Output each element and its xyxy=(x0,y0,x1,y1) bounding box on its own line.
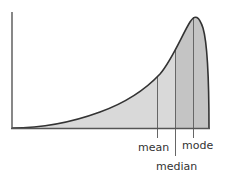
mean-label: mean xyxy=(138,141,169,154)
skewed-distribution-diagram: mean median mode xyxy=(0,0,226,178)
mode-label: mode xyxy=(182,139,213,152)
median-label: median xyxy=(156,160,197,173)
